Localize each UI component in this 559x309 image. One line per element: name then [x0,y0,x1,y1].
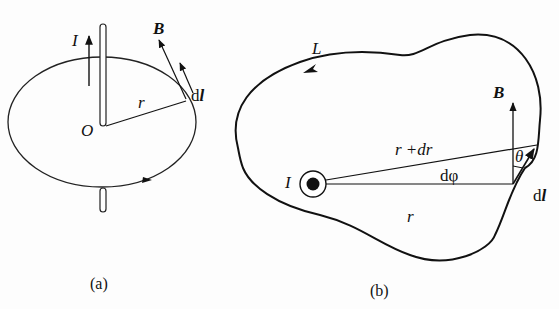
theta-arc [513,166,523,168]
panel-a-diagram [0,0,559,309]
wire-upper [100,24,106,126]
label-dl-a-l: l [200,86,205,105]
wire-lower [100,188,106,212]
caption-a: (a) [90,276,108,292]
caption-b: (b) [370,283,389,299]
label-loop-l: L [312,40,321,57]
label-dl-b-d: d [533,186,542,205]
label-dl-a-d: d [191,86,200,105]
label-dl-a: dl [191,87,204,104]
current-dot [307,178,320,191]
label-field-b-a: B [153,20,164,37]
field-arrow-b [159,40,186,99]
label-current-a: I [72,32,78,49]
figure-canvas: I B r O dl (a) L B r +dr θ dφ I r dl (b) [0,0,559,309]
label-dl-b-l: l [542,186,547,205]
label-dphi: dφ [440,167,458,184]
label-current-b: I [285,174,291,191]
label-radius-a: r [138,94,145,111]
closed-loop-l [236,35,541,261]
radius-line [106,101,186,126]
label-radius-plus-dr: r +dr [395,141,432,158]
loop-l-direction-arrow-icon [303,64,318,73]
label-dl-b: dl [533,187,546,204]
label-origin-o: O [81,122,93,139]
label-radius-b: r [407,208,414,225]
label-field-b-b: B [493,84,504,101]
label-theta: θ [515,148,523,165]
